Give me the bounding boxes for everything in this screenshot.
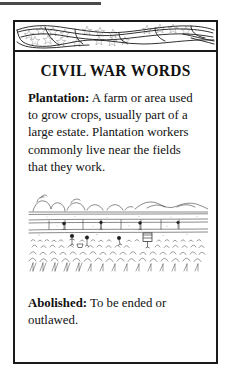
plantation-field-illustration <box>27 189 204 277</box>
glossary-entry-abolished: Abolished: To be ended or outlawed. <box>15 295 216 329</box>
plantation-field-engraving <box>27 189 208 277</box>
flag-banner-illustration <box>15 22 216 50</box>
glossary-entry-plantation: Plantation: A farm or area used to grow … <box>15 90 216 176</box>
civil-war-words-card: CIVIL WAR WORDS Plantation: A farm or ar… <box>13 20 218 364</box>
card-title: CIVIL WAR WORDS <box>27 60 204 81</box>
flag-banner <box>15 22 216 52</box>
glossary-term-abolished: Abolished: <box>28 296 87 310</box>
illustration-spacer <box>15 277 216 289</box>
glossary-term-plantation: Plantation: <box>28 91 89 105</box>
top-edge-rule <box>0 2 101 5</box>
